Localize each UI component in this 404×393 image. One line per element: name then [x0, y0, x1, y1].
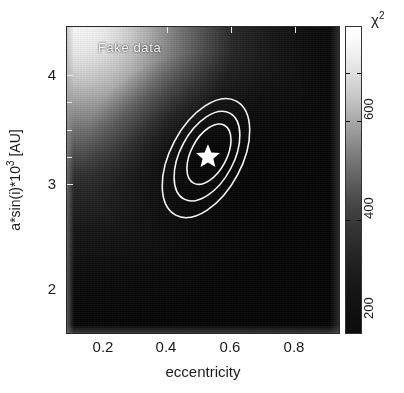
colorbar-title-exponent: 2 — [379, 10, 385, 21]
y-axis-title: a*sin(i)*103 [AU] — [5, 129, 23, 230]
colorbar-tick-unlabeled-right — [357, 73, 361, 74]
y-axis-title-main: a*sin(i)*10 — [7, 166, 23, 231]
y-tick-mark-1 — [67, 75, 73, 76]
x-tick-label-3: 0.8 — [284, 338, 305, 355]
colorbar-title: χ2 — [371, 10, 384, 28]
x-tick-label-0: 0.2 — [93, 338, 114, 355]
confidence-contours-overlay — [67, 27, 339, 333]
x-tick-mark-2 — [167, 27, 168, 33]
x-tick-label-2: 0.6 — [220, 338, 241, 355]
y-tick-mark-3 — [67, 130, 72, 131]
colorbar-tick-200 — [346, 320, 350, 321]
y-axis-title-unit: [AU] — [7, 129, 23, 160]
y-tick-mark-4 — [67, 157, 72, 158]
colorbar-tick-400 — [346, 220, 350, 221]
colorbar-tick-400-right — [357, 220, 361, 221]
x-tick-mark-1 — [104, 27, 105, 33]
y-tick-label-1: 3 — [48, 175, 56, 192]
chi2-contour-figure: Fake data 0.2 0.4 0.6 0.8 eccentricity 4… — [0, 0, 404, 393]
chi2-colorbar — [345, 26, 362, 334]
chi2-heatmap-panel: Fake data — [66, 26, 340, 334]
x-axis-title: eccentricity — [165, 363, 240, 380]
colorbar-label-200: 200 — [361, 297, 376, 319]
x-tick-label-1: 0.4 — [156, 338, 177, 355]
y-tick-mark-5 — [67, 184, 73, 185]
colorbar-tick-600 — [346, 121, 350, 122]
colorbar-label-400: 400 — [361, 197, 376, 219]
y-tick-mark-2 — [67, 102, 72, 103]
colorbar-title-symbol: χ — [371, 11, 379, 28]
colorbar-tick-unlabeled — [346, 73, 350, 74]
colorbar-tick-200-right — [357, 320, 361, 321]
panel-annotation-label: Fake data — [98, 40, 161, 55]
colorbar-tick-600-right — [357, 121, 361, 122]
y-axis-title-exponent: 3 — [5, 160, 16, 166]
colorbar-label-600: 600 — [361, 98, 376, 120]
x-tick-mark-3 — [231, 27, 232, 33]
x-tick-mark-4 — [295, 27, 296, 33]
y-tick-label-2: 2 — [48, 280, 56, 297]
best-fit-star-marker — [196, 144, 220, 167]
y-tick-label-0: 4 — [48, 66, 56, 83]
